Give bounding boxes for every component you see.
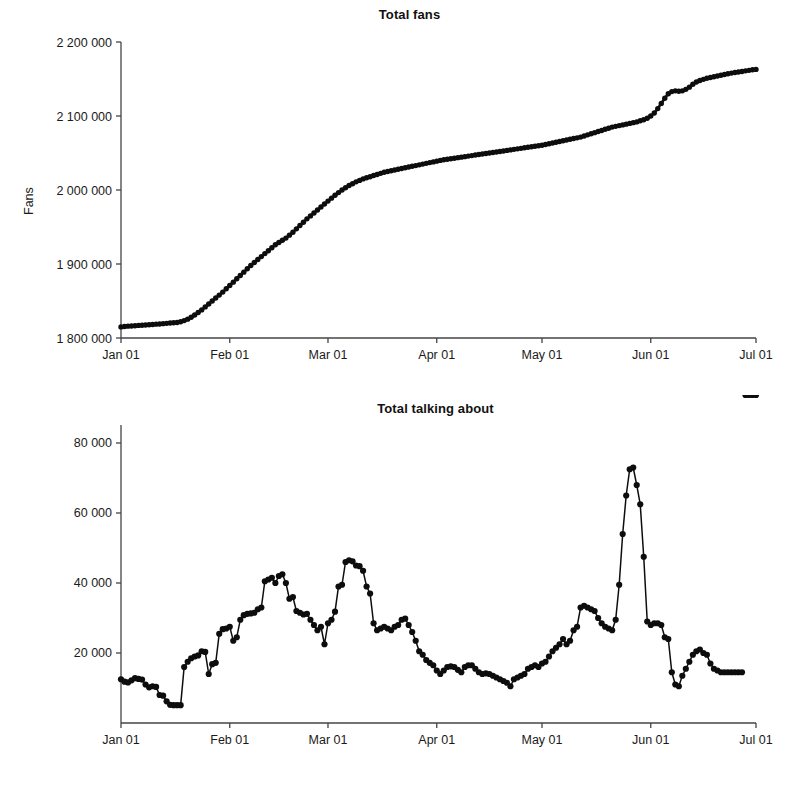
data-point: [652, 110, 657, 115]
data-point: [213, 660, 219, 666]
data-point: [641, 554, 647, 560]
data-point: [269, 575, 275, 581]
y-tick-label: 2 000 000: [56, 184, 112, 198]
data-point: [409, 629, 415, 635]
data-point: [634, 482, 640, 488]
y-tick-label: 2 100 000: [56, 110, 112, 124]
data-point: [402, 616, 408, 622]
y-tick-label: 40 000: [74, 576, 112, 590]
data-point: [665, 636, 671, 642]
y-tick-label: 80 000: [74, 436, 112, 450]
plot-area-total-fans: 1 800 0001 900 0002 000 0002 100 0002 20…: [0, 0, 791, 395]
data-point: [507, 683, 513, 689]
x-tick-label: Mar 01: [309, 733, 348, 747]
data-point: [395, 622, 401, 628]
data-point: [153, 684, 159, 690]
data-point: [178, 702, 184, 708]
data-point: [683, 666, 689, 672]
x-tick-label: Jul 01: [739, 348, 772, 362]
data-point: [304, 611, 310, 617]
x-tick-label: Jun 01: [632, 348, 670, 362]
data-point: [311, 622, 317, 628]
x-tick-label: Jun 01: [632, 733, 670, 747]
x-tick-label: Feb 01: [210, 348, 249, 362]
x-tick-label: Apr 01: [418, 348, 455, 362]
data-point: [430, 662, 436, 668]
data-point: [753, 67, 758, 72]
data-series-markers: [118, 395, 759, 708]
data-point: [328, 617, 334, 623]
data-point: [202, 649, 208, 655]
data-point: [406, 622, 412, 628]
data-point: [420, 652, 426, 658]
data-point: [318, 624, 324, 630]
plot-area-total-talking-about: 20 00040 00060 00080 000Jan 01Feb 01Mar …: [0, 395, 791, 787]
data-point: [613, 617, 619, 623]
data-point: [371, 620, 377, 626]
data-point: [707, 660, 713, 666]
data-point: [339, 582, 345, 588]
data-point: [560, 636, 566, 642]
data-point: [307, 617, 313, 623]
y-tick-label: 1 900 000: [56, 258, 112, 272]
x-tick-label: May 01: [521, 348, 562, 362]
data-point: [592, 608, 598, 614]
y-tick-label: 60 000: [74, 506, 112, 520]
data-point: [739, 669, 745, 675]
data-series-line: [121, 467, 742, 705]
x-tick-label: Jul 01: [739, 733, 772, 747]
data-series-line: [121, 69, 756, 327]
data-point: [360, 568, 366, 574]
x-tick-label: Mar 01: [309, 348, 348, 362]
chart-panel-total-fans: Total fans Fans 1 800 0001 900 0002 000 …: [0, 0, 791, 395]
data-point: [676, 683, 682, 689]
data-point: [574, 624, 580, 630]
data-point: [630, 464, 636, 470]
data-point: [160, 693, 166, 699]
data-point: [679, 673, 685, 679]
data-point: [363, 583, 369, 589]
data-point: [567, 638, 573, 644]
data-point: [206, 671, 212, 677]
data-point: [521, 671, 527, 677]
y-tick-label: 1 800 000: [56, 332, 112, 346]
data-point: [367, 590, 373, 596]
data-point: [609, 627, 615, 633]
data-point: [290, 594, 296, 600]
data-point: [556, 641, 562, 647]
figure-container: Total fans Fans 1 800 0001 900 0002 000 …: [0, 0, 791, 787]
data-point: [623, 492, 629, 498]
x-tick-label: Apr 01: [418, 733, 455, 747]
data-point: [658, 622, 664, 628]
data-point: [234, 634, 240, 640]
data-point: [616, 582, 622, 588]
data-point: [704, 652, 710, 658]
data-point: [332, 609, 338, 615]
data-point: [227, 624, 233, 630]
data-point: [321, 641, 327, 647]
data-point: [655, 106, 660, 111]
data-point: [595, 615, 601, 621]
data-point: [637, 501, 643, 507]
chart-panel-total-talking-about: Total talking about Talking about 20 000…: [0, 395, 791, 787]
data-point: [283, 580, 289, 586]
data-point: [669, 669, 675, 675]
data-point: [458, 669, 464, 675]
data-point: [662, 96, 667, 101]
x-tick-label: Feb 01: [210, 733, 249, 747]
x-tick-label: Jan 01: [102, 348, 140, 362]
data-point: [546, 653, 552, 659]
x-tick-label: May 01: [521, 733, 562, 747]
y-tick-label: 2 200 000: [56, 36, 112, 50]
data-point: [542, 659, 548, 665]
data-point: [620, 531, 626, 537]
data-series-markers: [118, 67, 758, 330]
data-point: [181, 664, 187, 670]
data-point: [413, 638, 419, 644]
data-point: [686, 659, 692, 665]
data-point: [272, 580, 278, 586]
x-tick-label: Jan 01: [102, 733, 140, 747]
data-point: [279, 571, 285, 577]
data-point: [659, 101, 664, 106]
y-tick-label: 20 000: [74, 646, 112, 660]
